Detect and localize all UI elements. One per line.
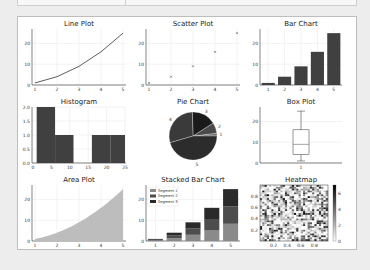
histogram-bin [55,135,73,163]
line-plot: 01020Line Plot12345 [24,20,126,92]
y-tick-label: 20 [252,41,258,46]
x-tick-label: 1 [34,243,37,248]
stacked-bar-segment [204,230,219,241]
colorbar-tick-label: 4 [338,207,341,212]
x-tick-label: 15 [85,165,91,170]
y-tick-label: 0 [27,83,30,88]
box [293,130,309,155]
x-tick-label: 5 [122,243,125,248]
x-tick-label: 0.8 [311,243,318,248]
y-tick-label: 0 [255,83,258,88]
histogram-bin [92,135,110,163]
y-tick-label: 2.0 [23,105,30,110]
box-plot: 01020Box Plot1 [252,98,342,170]
stacked-bar-segment [185,235,200,241]
pie-chart: Pie Chart12345 [169,98,223,167]
y-tick-label: 1.0 [23,133,30,138]
x-tick-label: 4 [214,87,217,92]
x-tick-label: 20 [104,165,110,170]
legend-label: Segment 2 [158,194,178,198]
y-tick-label: 0 [141,83,144,88]
bar [262,83,275,85]
x-tick-label: 10 [67,165,73,170]
chart-title: Histogram [61,98,97,106]
x-tick-label: 3 [78,243,81,248]
top-strip [17,0,357,6]
pie-label: 4 [169,117,172,122]
figure-card: 01020Line Plot1234501020Scatter Plot1234… [17,16,357,250]
x-tick-label: 5 [236,87,239,92]
stacked-bar-segment [185,222,200,228]
x-tick-label: 3 [78,87,81,92]
y-tick-label: 0 [255,161,258,166]
y-tick-label: 0.2 [251,228,258,233]
x-tick-label: 4 [100,243,103,248]
x-tick-label: 2 [56,87,59,92]
heatmap: Heatmap0.20.40.60.80.20.40.60.80246 [251,176,341,248]
x-tick-label: 0.2 [270,243,277,248]
y-tick-label: 0 [27,239,30,244]
x-tick-label: 5 [229,243,232,248]
x-tick-label: 3 [192,87,195,92]
x-tick-label: 0 [32,165,35,170]
stacked-bar-segment [185,229,200,235]
y-tick-label: 10 [24,218,30,223]
stacked-bar-segment [148,240,163,241]
y-tick-label: 20 [24,41,30,46]
bar [294,66,307,85]
area-plot: 01020Area Plot12345 [24,176,126,248]
pie-label: 2 [218,124,221,129]
stacked-bar-segment [204,219,219,230]
legend-label: Segment 3 [158,200,178,204]
x-tick-label: 2 [283,87,286,92]
y-tick-label: 10 [138,62,144,67]
y-tick-label: 10 [24,62,30,67]
colorbar-tick-label: 2 [338,223,341,228]
x-tick-label: 1 [267,87,270,92]
histogram: 0.00.51.01.52.0Histogram0510152025 [23,98,128,170]
x-tick-label: 0.4 [284,243,291,248]
y-tick-label: 0.4 [251,216,258,221]
stacked-bar-segment [223,207,238,224]
chart-title: Box Plot [287,98,316,106]
y-tick-label: 20 [138,41,144,46]
stacked-bar-segment [204,208,219,219]
y-tick-label: 0 [141,239,144,244]
x-tick-label: 5 [50,165,53,170]
y-tick-label: 20 [138,197,144,202]
x-tick-label: 2 [170,87,173,92]
chart-title: Stacked Bar Chart [161,176,225,184]
y-tick-label: 0.5 [23,147,30,152]
x-tick-label: 25 [122,165,128,170]
x-tick-label: 4 [100,87,103,92]
chart-title: Area Plot [63,176,95,184]
top-strip-divider [125,0,126,5]
y-tick-label: 0.8 [251,194,258,199]
pie-label: 1 [220,132,223,137]
x-tick-label: 2 [56,243,59,248]
pie-label: 3 [205,109,208,114]
bar [327,33,340,85]
legend-label: Segment 1 [158,189,178,193]
x-tick-label: 3 [192,243,195,248]
y-tick-label: 0.0 [23,161,30,166]
x-tick-label: 1 [154,243,157,248]
x-tick-label: 1 [148,87,151,92]
histogram-bin [110,135,125,163]
x-tick-label: 1 [34,87,37,92]
legend: Segment 1Segment 2Segment 3 [148,187,178,206]
bar-chart: 01020Bar Chart12345 [252,20,342,92]
scatter-plot: 01020Scatter Plot12345 [138,20,240,92]
stacked-bar-segment [167,238,182,241]
x-tick-label: 4 [316,87,319,92]
chart-title: Heatmap [285,176,318,184]
y-tick-label: 10 [138,218,144,223]
figure-canvas: 01020Line Plot1234501020Scatter Plot1234… [18,17,356,249]
x-tick-label: 4 [210,243,213,248]
x-tick-label: 5 [122,87,125,92]
chart-title: Bar Chart [284,20,318,28]
pie-label: 5 [196,162,199,167]
colorbar-tick-label: 6 [338,191,341,196]
y-tick-label: 1.5 [23,119,30,124]
y-tick-label: 20 [252,119,258,124]
